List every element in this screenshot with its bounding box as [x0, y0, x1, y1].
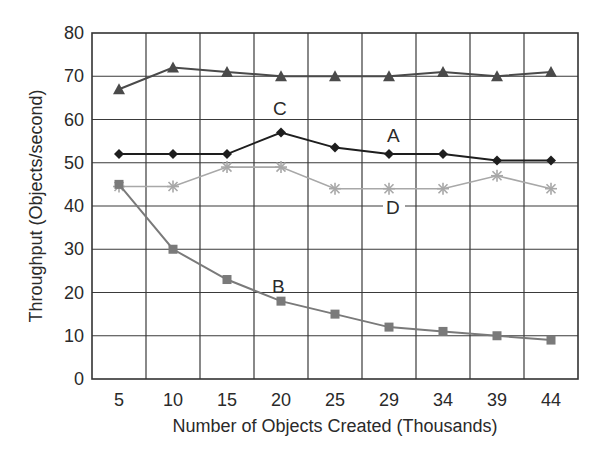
throughput-line-chart: 01020304050607080 51015202529343944 CADB… [0, 0, 605, 463]
y-tick-label: 60 [64, 110, 84, 130]
x-tick-label: 15 [217, 390, 237, 410]
asterisk-marker [545, 183, 557, 195]
asterisk-marker [167, 181, 179, 193]
diamond-marker [492, 156, 502, 166]
asterisk-marker [491, 170, 503, 182]
diamond-marker [276, 127, 286, 137]
series-d [113, 161, 557, 195]
diamond-marker [114, 149, 124, 159]
square-marker [331, 310, 340, 319]
square-marker [547, 336, 556, 345]
square-marker [493, 331, 502, 340]
y-tick-label: 30 [64, 239, 84, 259]
y-tick-label: 80 [64, 23, 84, 43]
x-tick-label: 29 [379, 390, 399, 410]
y-tick-label: 70 [64, 66, 84, 86]
y-tick-label: 40 [64, 196, 84, 216]
x-tick-label: 44 [541, 390, 561, 410]
asterisk-marker [383, 183, 395, 195]
series-b [115, 180, 556, 345]
x-tick-label: 20 [271, 390, 291, 410]
series-a [114, 127, 556, 165]
asterisk-marker [221, 161, 233, 173]
series-label-b: B [272, 276, 285, 297]
series-c [113, 62, 557, 95]
diamond-marker [168, 149, 178, 159]
y-tick-label: 0 [74, 369, 84, 389]
series-lines [113, 62, 557, 345]
square-marker [385, 323, 394, 332]
diamond-marker [222, 149, 232, 159]
x-tick-label: 34 [433, 390, 453, 410]
series-label-c: C [273, 98, 287, 119]
square-marker [115, 180, 124, 189]
y-tick-label: 10 [64, 326, 84, 346]
asterisk-marker [275, 161, 287, 173]
y-axis-title: Throughput (Objects/second) [26, 89, 46, 322]
diamond-marker [438, 149, 448, 159]
x-tick-label: 39 [487, 390, 507, 410]
series-label-d: D [386, 197, 400, 218]
asterisk-marker [437, 183, 449, 195]
y-axis-tick-labels: 01020304050607080 [64, 23, 84, 389]
square-marker [439, 327, 448, 336]
x-tick-label: 10 [163, 390, 183, 410]
triangle-marker [113, 83, 125, 94]
diamond-marker [384, 149, 394, 159]
square-marker [169, 245, 178, 254]
diamond-marker [546, 156, 556, 166]
x-axis-tick-labels: 51015202529343944 [114, 390, 561, 410]
square-marker [223, 275, 232, 284]
x-tick-label: 5 [114, 390, 124, 410]
square-marker [277, 297, 286, 306]
series-label-a: A [387, 125, 400, 146]
y-tick-label: 20 [64, 283, 84, 303]
chart-canvas: 01020304050607080 51015202529343944 CADB… [0, 0, 605, 463]
gridlines [92, 33, 578, 379]
series-labels: CADB [272, 98, 405, 297]
diamond-marker [330, 143, 340, 153]
x-tick-label: 25 [325, 390, 345, 410]
x-axis-title: Number of Objects Created (Thousands) [172, 416, 497, 436]
y-tick-label: 50 [64, 153, 84, 173]
asterisk-marker [329, 183, 341, 195]
